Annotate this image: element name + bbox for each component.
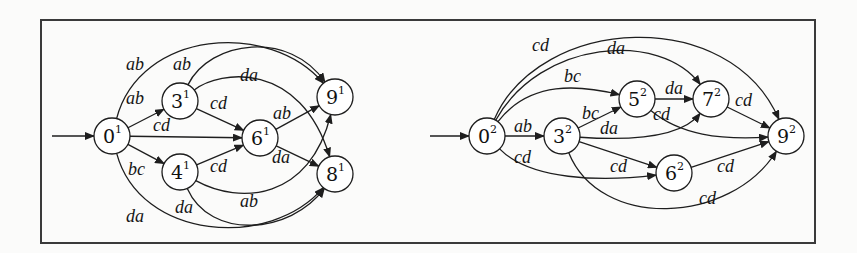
state-node: 72: [693, 81, 729, 117]
transition-label: da: [175, 197, 193, 217]
transition-label: da: [240, 65, 258, 85]
figure: 013141619181023252726292 ababcdbcdaabdac…: [0, 0, 857, 253]
transition-label: da: [600, 118, 618, 138]
state-superscript: 2: [789, 123, 796, 136]
transition-label: ab: [126, 88, 144, 108]
state-label: 3: [553, 125, 565, 147]
state-label: 6: [251, 127, 263, 149]
state-superscript: 1: [183, 159, 190, 172]
state-superscript: 1: [263, 125, 270, 138]
transition-label: ab: [126, 54, 144, 74]
state-superscript: 1: [338, 161, 345, 174]
transition-label: bc: [582, 103, 599, 123]
transition-label: bc: [128, 159, 145, 179]
state-superscript: 2: [565, 123, 572, 136]
state-label: 0: [103, 125, 115, 147]
transition-label: cd: [699, 188, 717, 208]
state-node: 92: [768, 118, 804, 154]
transition-label: cd: [717, 156, 735, 176]
state-node: 02: [469, 118, 505, 154]
transition-label: cd: [735, 90, 753, 110]
state-superscript: 1: [183, 88, 190, 101]
transition-label: ab: [240, 191, 258, 211]
transition-label: da: [607, 38, 625, 58]
state-node: 41: [162, 154, 198, 190]
state-superscript: 2: [640, 86, 647, 99]
state-node: 31: [162, 83, 198, 119]
state-label: 7: [702, 88, 714, 110]
edge-labels-layer: ababcdbcdaabdacdcdabdaabdacddabcabcdbcda…: [126, 35, 753, 226]
state-superscript: 1: [338, 84, 345, 97]
state-node: 32: [544, 118, 580, 154]
state-superscript: 2: [714, 86, 721, 99]
transition-label: cd: [514, 147, 532, 167]
state-label: 9: [777, 125, 789, 147]
state-label: 8: [326, 163, 338, 185]
state-superscript: 2: [677, 160, 684, 173]
transition-label: cd: [210, 93, 228, 113]
state-superscript: 1: [115, 123, 122, 136]
state-node: 81: [317, 156, 353, 192]
transition-label: cd: [532, 35, 550, 55]
state-node: 52: [619, 81, 655, 117]
automata-diagram: 013141619181023252726292 ababcdbcdaabdac…: [0, 0, 857, 253]
transition-label: da: [126, 206, 144, 226]
transition-label: cd: [610, 156, 628, 176]
state-superscript: 2: [490, 123, 497, 136]
state-label: 4: [171, 161, 183, 183]
transition-label: cd: [653, 104, 671, 124]
transition-label: ab: [173, 54, 191, 74]
transition-label: ab: [514, 116, 532, 136]
transition-label: da: [272, 147, 290, 167]
state-node: 91: [317, 79, 353, 115]
transition-label: ab: [273, 103, 291, 123]
state-node: 01: [94, 118, 130, 154]
state-label: 5: [628, 88, 640, 110]
transition-edge: [130, 136, 242, 138]
state-label: 3: [171, 90, 183, 112]
transition-label: cd: [210, 156, 228, 176]
state-node: 62: [656, 155, 692, 191]
transition-label: cd: [153, 115, 171, 135]
state-label: 6: [665, 162, 677, 184]
state-label: 0: [478, 125, 490, 147]
transition-edge: [727, 107, 770, 128]
transition-label: bc: [564, 66, 581, 86]
transition-label: da: [665, 78, 683, 98]
state-label: 9: [326, 86, 338, 108]
